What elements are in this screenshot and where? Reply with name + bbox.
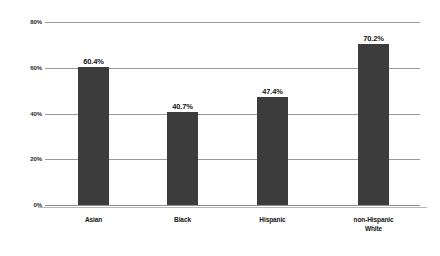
bar-black[interactable] — [167, 112, 198, 205]
x-axis-label-non-hispanic-white-line2: White — [329, 225, 419, 234]
bar-value-label-black: 40.7% — [148, 102, 218, 111]
y-axis-tick-label-0: 0% — [2, 202, 42, 208]
gridline-0-baseline — [45, 205, 420, 206]
bar-chart: 80% 60% 40% 20% 0% 60.4% 40.7% 47.4% 70.… — [0, 0, 440, 256]
y-axis-tick-label-20: 20% — [2, 156, 42, 162]
x-axis-label-asian-line1: Asian — [49, 216, 139, 225]
y-axis-tick-label-60: 60% — [2, 65, 42, 71]
x-axis-label-hispanic: Hispanic — [228, 216, 318, 225]
bar-value-label-asian: 60.4% — [59, 57, 129, 66]
x-axis-label-black: Black — [138, 216, 228, 225]
y-axis-tick-label-80: 80% — [2, 19, 42, 25]
bar-asian[interactable] — [78, 67, 109, 205]
gridline-80 — [45, 22, 420, 23]
x-axis-label-hispanic-line1: Hispanic — [228, 216, 318, 225]
bar-value-label-hispanic: 47.4% — [238, 87, 308, 96]
x-axis-label-black-line1: Black — [138, 216, 228, 225]
x-axis-label-non-hispanic-white: non-Hispanic White — [329, 216, 419, 233]
y-axis-tick-label-40: 40% — [2, 111, 42, 117]
bar-non-hispanic-white[interactable] — [358, 44, 389, 205]
x-axis-label-non-hispanic-white-line1: non-Hispanic — [329, 216, 419, 225]
bar-hispanic[interactable] — [257, 97, 288, 205]
bar-value-label-non-hispanic-white: 70.2% — [339, 34, 409, 43]
plot-area — [45, 22, 420, 205]
x-axis-label-asian: Asian — [49, 216, 139, 225]
axis-baseline-extension — [38, 207, 427, 208]
